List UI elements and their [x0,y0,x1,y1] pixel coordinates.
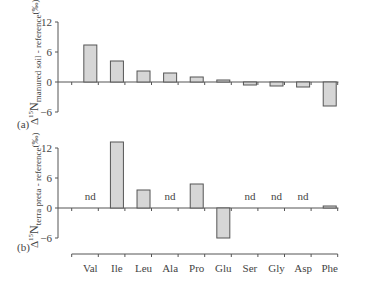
bar-val [84,45,97,82]
y-axis-title-b: Δ15Nterra preta - reference(‰) [27,133,43,248]
bar-gly [270,82,283,86]
panel-b: 1260−6ndndndndnd [40,142,338,244]
svg-text:Δ15Nterra preta - reference(‰): Δ15Nterra preta - reference(‰) [27,133,43,248]
nd-label: nd [271,190,283,202]
category-axis: ValIleLeuAlaProGluSerGlyAspPhe [72,254,338,274]
svg-text:Δ15Nmanured soil - reference(‰: Δ15Nmanured soil - reference(‰) [27,0,43,125]
bar-glu [217,80,230,82]
panel-a: 1260−6 [40,16,338,118]
nd-label: nd [85,190,97,202]
y-tick-label: −6 [40,232,52,244]
category-label-leu: Leu [135,262,153,274]
y-tick-label: 0 [47,76,53,88]
category-label-val: Val [83,262,98,274]
category-label-ile: Ile [111,262,123,274]
category-label-pro: Pro [189,262,205,274]
y-tick-label: 6 [47,172,53,184]
nd-label: nd [244,190,256,202]
bar-phe [323,206,336,208]
category-label-phe: Phe [321,262,338,274]
y-tick-label: 6 [47,46,53,58]
category-label-ala: Ala [162,262,178,274]
nd-label: nd [298,190,310,202]
bar-leu [137,190,150,208]
bar-pro [190,184,203,208]
y-tick-label: −6 [40,106,52,118]
bar-phe [323,82,336,106]
bar-glu [217,208,230,238]
amino-acid-d15n-chart: 1260−6 1260−6ndndndndnd ValIleLeuAlaProG… [0,0,370,287]
category-label-asp: Asp [294,262,312,274]
category-label-ser: Ser [243,262,258,274]
y-tick-label: 0 [47,202,53,214]
bar-ala [164,73,177,82]
bar-pro [190,77,203,82]
bar-ser [243,82,256,85]
bar-ile [110,61,123,82]
bar-asp [297,82,310,87]
category-label-glu: Glu [215,262,232,274]
nd-label: nd [165,190,177,202]
category-label-gly: Gly [268,262,285,274]
bar-leu [137,71,150,82]
bar-ile [110,142,123,208]
y-axis-title-a: Δ15Nmanured soil - reference(‰) [27,0,43,125]
